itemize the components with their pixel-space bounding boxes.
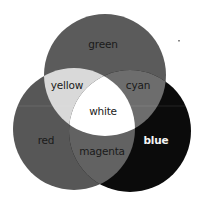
label-red: red xyxy=(38,134,55,146)
label-magenta: magenta xyxy=(79,145,125,157)
stray-dot xyxy=(178,40,180,42)
label-blue: blue xyxy=(144,134,169,146)
label-cyan: cyan xyxy=(126,79,150,91)
label-green: green xyxy=(88,38,117,50)
rgb-venn-diagram: green yellow cyan white red magenta blue xyxy=(0,0,206,205)
label-white: white xyxy=(89,105,117,117)
label-yellow: yellow xyxy=(51,79,84,91)
